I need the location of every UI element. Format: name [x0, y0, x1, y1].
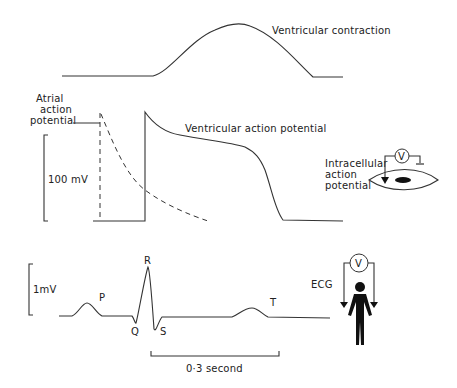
cardiac-timing-diagram: Ventricular contraction Atrial action po… — [0, 0, 457, 388]
voltage-scale-label: 100 mV — [48, 174, 88, 185]
intracellular-label-line3: potential — [325, 180, 371, 191]
atrial-label-line3: potential — [30, 115, 76, 126]
intracellular-label-line2: action — [325, 169, 357, 180]
r-wave-label: R — [144, 255, 151, 266]
time-scale-bar — [151, 351, 279, 356]
ventricular-contraction-label: Ventricular contraction — [272, 25, 391, 36]
q-wave-label: Q — [131, 326, 139, 337]
ecg-scale-label: 1mV — [33, 284, 57, 295]
time-scale-label: 0·3 second — [186, 363, 243, 374]
person-voltmeter-symbol: V — [355, 258, 362, 269]
ecg-label: ECG — [311, 279, 333, 290]
s-wave-label: S — [160, 326, 167, 337]
t-wave-label: T — [269, 297, 277, 308]
intracellular-label-line1: Intracellular — [325, 158, 388, 169]
atrial-label-line2: action — [40, 104, 72, 115]
ventricular-action-potential-label: Ventricular action potential — [185, 123, 326, 134]
p-wave-label: P — [99, 292, 105, 303]
cell-voltmeter-symbol: V — [398, 151, 405, 162]
atrial-label-line1: Atrial — [36, 93, 64, 104]
